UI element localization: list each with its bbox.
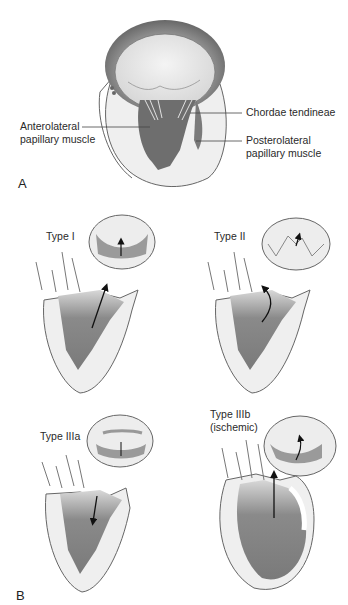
anterolateral-label: Anterolateral papillary muscle (20, 120, 95, 146)
mitral-figure (0, 0, 348, 605)
type-3b-label: Type IIIb (ischemic) (210, 408, 258, 434)
posterolateral-label-line1: Posterolateral (246, 134, 321, 147)
chordae-tendineae-label: Chordae tendineae (246, 106, 335, 119)
type-3b-diagram (220, 416, 336, 589)
type-2-diagram (208, 218, 330, 393)
panel-b-letter: B (16, 588, 25, 603)
panel-a-heart-diagram (82, 20, 242, 187)
panel-a-letter: A (18, 176, 27, 191)
type-3b-label-line1: Type IIIb (210, 408, 258, 421)
type-2-label: Type II (214, 230, 246, 243)
posterolateral-label-line2: papillary muscle (246, 147, 321, 160)
anterolateral-label-line1: Anterolateral (20, 120, 95, 133)
type-3a-label: Type IIIa (40, 430, 80, 443)
posterolateral-label: Posterolateral papillary muscle (246, 134, 321, 160)
anterolateral-label-line2: papillary muscle (20, 133, 95, 146)
type-1-label: Type I (46, 230, 75, 243)
type-3b-label-line2: (ischemic) (210, 421, 258, 434)
